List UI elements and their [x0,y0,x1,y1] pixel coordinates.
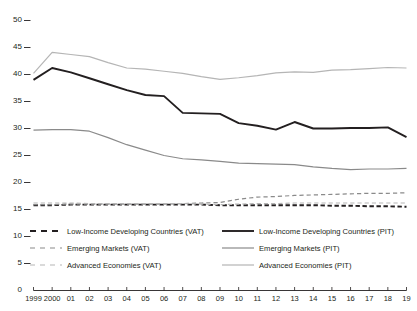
series-line-1 [34,130,407,170]
y-tick-label: 40 [0,70,22,78]
series-line-5 [34,203,407,205]
y-tick-label: 20 [0,178,22,186]
legend-label-4: Emerging Markets (PIT) [259,244,340,253]
legend-label-2: Advanced Economies (VAT) [67,261,162,270]
plot-area: Low-Income Developing Countries (VAT)Eme… [0,0,417,311]
legend-label-1: Emerging Markets (VAT) [67,244,150,253]
line-chart-svg: Low-Income Developing Countries (VAT)Eme… [0,0,417,311]
y-tick-label: 35 [0,97,22,105]
series-line-0 [34,68,407,137]
series-line-3 [34,205,407,207]
legend-label-0: Low-Income Developing Countries (VAT) [67,227,204,236]
y-tick-label: 45 [0,43,22,51]
chart-container: Low-Income Developing Countries (VAT)Eme… [0,0,417,311]
series-line-2 [34,52,407,79]
y-tick-label: 25 [0,151,22,159]
legend-label-5: Advanced Economies (PIT) [259,261,352,270]
y-tick-label: 15 [0,205,22,213]
legend-label-3: Low-Income Developing Countries (PIT) [259,227,395,236]
x-tick-label: 19 [394,295,417,303]
y-tick-label: 10 [0,232,22,240]
y-tick-label: 50 [0,16,22,24]
y-tick-label: 5 [0,259,22,267]
y-tick-label: 0 [0,286,22,294]
y-tick-label: 30 [0,124,22,132]
